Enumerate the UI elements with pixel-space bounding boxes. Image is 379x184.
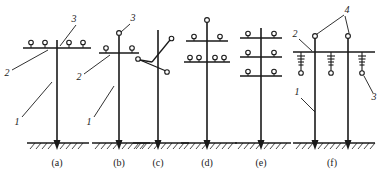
pin-insulator <box>104 46 109 51</box>
figure-root: 3 2 1 (a) 3 2 1 (b) <box>0 0 379 184</box>
pole-base-anchor <box>204 140 211 150</box>
suspension-insulator-string-2 <box>327 52 335 75</box>
pin-insulator <box>272 31 277 36</box>
callout-label-4: 4 <box>345 4 350 15</box>
callout-leader-2 <box>299 39 312 51</box>
pin-insulator <box>222 55 227 60</box>
pin-insulator <box>43 40 48 45</box>
panel-e: (e) <box>235 28 291 169</box>
pin-insulator <box>272 50 277 55</box>
callout-label-1: 1 <box>15 116 20 127</box>
pin-insulator <box>197 55 202 60</box>
panel-caption-d: (d) <box>201 157 213 169</box>
pin-insulator <box>246 31 251 36</box>
suspension-insulator-string-3 <box>358 52 366 75</box>
pole-base-anchor <box>54 140 61 150</box>
pin-insulator <box>169 36 174 41</box>
callout-leader-2 <box>12 50 48 70</box>
pole-configuration-diagram: 3 2 1 (a) 3 2 1 (b) <box>0 0 379 184</box>
panel-f: 4 2 1 3 (f) <box>293 4 377 169</box>
pin-insulator <box>81 40 86 45</box>
callout-label-1: 1 <box>295 86 300 97</box>
pole-base-anchor <box>258 140 265 150</box>
callout-leader-4b <box>345 16 349 33</box>
callout-label-1: 1 <box>87 116 92 127</box>
callout-leader-1 <box>94 86 114 117</box>
callout-leader-1 <box>301 98 315 112</box>
callout-label-3: 3 <box>71 13 77 24</box>
callout-label-3: 3 <box>130 12 136 23</box>
panel-caption-c: (c) <box>152 157 163 169</box>
pin-insulator <box>272 69 277 74</box>
pin-insulator <box>246 69 251 74</box>
callout-label-2: 2 <box>5 67 10 78</box>
panel-caption-f: (f) <box>327 157 337 169</box>
callout-leader-3 <box>121 24 130 32</box>
pin-insulator <box>130 46 135 51</box>
pin-insulator <box>67 40 72 45</box>
pin-insulator <box>218 34 223 39</box>
pin-insulator <box>165 70 170 75</box>
pin-insulator <box>136 57 141 62</box>
conductor-support-insulator-right <box>346 34 351 39</box>
pin-insulator <box>213 55 218 60</box>
panel-caption-a: (a) <box>51 157 62 169</box>
callout-label-2: 2 <box>77 71 82 82</box>
callout-leader-2 <box>84 55 110 74</box>
pole-base-anchor <box>155 140 162 150</box>
pin-insulator <box>29 40 34 45</box>
panel-d: (d) <box>181 18 237 169</box>
pole-base-anchor-left <box>312 140 319 150</box>
callout-label-2: 2 <box>293 28 298 39</box>
pin-insulator <box>188 55 193 60</box>
conductor-support-insulator-left <box>313 34 318 39</box>
panel-caption-e: (e) <box>255 157 266 169</box>
callout-label-3: 3 <box>371 91 377 102</box>
panel-a: 3 2 1 (a) <box>5 13 92 169</box>
top-pin-insulator <box>205 18 210 23</box>
callout-leader-1 <box>22 82 52 117</box>
pin-insulator <box>192 34 197 39</box>
callout-leader-4a <box>317 15 344 34</box>
panel-caption-b: (b) <box>113 157 125 169</box>
top-pin-insulator <box>117 31 122 36</box>
panel-c: (c) <box>133 30 189 169</box>
ground-hatching <box>296 143 375 149</box>
delta-arm-upper-right <box>152 40 170 62</box>
pin-insulator <box>246 50 251 55</box>
suspension-insulator-string-1 <box>297 52 305 75</box>
